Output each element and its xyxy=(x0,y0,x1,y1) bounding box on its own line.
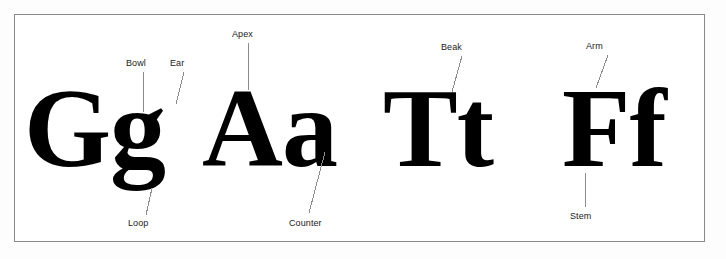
callout-label-ear: Ear xyxy=(170,58,184,68)
leader-line-beak xyxy=(452,56,462,92)
callout-label-arm: Arm xyxy=(586,41,603,51)
callout-overlay xyxy=(0,0,726,259)
typography-anatomy-diagram: GgAaTtFf BowlEarApexBeakArmLoopCounterSt… xyxy=(0,0,726,259)
leader-line-ear xyxy=(176,72,184,104)
callout-label-loop: Loop xyxy=(128,218,148,228)
leader-line-counter xyxy=(309,152,325,213)
callout-label-bowl: Bowl xyxy=(126,58,146,68)
callout-label-apex: Apex xyxy=(232,29,253,39)
leader-line-arm xyxy=(596,55,608,88)
callout-label-stem: Stem xyxy=(570,211,591,221)
callout-label-counter: Counter xyxy=(289,218,322,228)
leader-line-loop xyxy=(146,188,152,215)
callout-label-beak: Beak xyxy=(441,42,462,52)
